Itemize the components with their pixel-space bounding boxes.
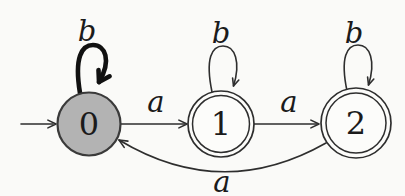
automaton-svg: b b b a a a: [0, 0, 405, 196]
edge-1-to-2: a: [254, 85, 319, 128]
automaton-diagram: b b b a a a: [0, 0, 405, 196]
self-loop-0-curve: [78, 45, 106, 93]
state-2-label: 2: [346, 104, 366, 142]
state-1-label: 1: [211, 105, 231, 143]
self-loop-0-label: b: [78, 14, 97, 48]
self-loop-state-1: b: [209, 16, 239, 92]
self-loop-state-0: b: [78, 14, 110, 93]
edge-1-2-label: a: [280, 85, 297, 119]
state-0-label: 0: [79, 105, 99, 143]
self-loop-state-2: b: [344, 16, 374, 91]
edge-0-to-1: a: [121, 85, 187, 128]
self-loop-2-label: b: [345, 16, 364, 50]
state-1-node: 1: [188, 91, 254, 157]
state-2-node: 2: [321, 88, 391, 158]
initial-arrow: [21, 120, 56, 128]
state-0-node: 0: [58, 93, 121, 156]
edge-2-0-label: a: [213, 165, 230, 196]
self-loop-1-label: b: [212, 16, 231, 50]
edge-0-1-label: a: [147, 85, 164, 119]
